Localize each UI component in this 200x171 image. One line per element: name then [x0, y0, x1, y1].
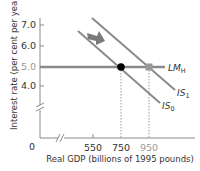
x-axis-title: Real GDP (billions of 1995 pounds): [46, 154, 194, 164]
x-tick-750: 750: [112, 142, 130, 153]
is0-label: IS0: [162, 101, 175, 113]
is1-label: IS1: [177, 88, 190, 100]
new-equilibrium-point: [146, 64, 153, 71]
initial-equilibrium-point: [117, 63, 125, 71]
y-tick-4: 4.0: [21, 80, 36, 91]
y-ticks: [40, 25, 44, 86]
x-tick-950: 950: [140, 142, 158, 153]
y-tick-5: 5.0: [21, 61, 36, 72]
origin-label: 0: [29, 141, 35, 152]
x-tick-550: 550: [84, 142, 102, 153]
is-lm-chart: Interest rate (per cent per year) 7.0 6.…: [0, 0, 200, 171]
shift-arrow-icon: [87, 31, 105, 45]
y-tick-7: 7.0: [21, 19, 36, 30]
y-axis-title: Interest rate (per cent per year): [9, 0, 19, 130]
y-tick-6: 6.0: [21, 40, 36, 51]
lm-label: LMH: [168, 63, 186, 75]
